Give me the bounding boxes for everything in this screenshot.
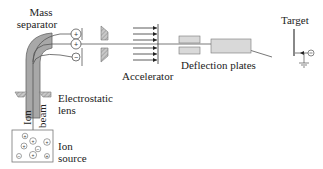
label-mass-separator-line2: separator (14, 18, 60, 30)
svg-text:+: + (32, 152, 35, 158)
label-ion-source-line1: Ion (58, 140, 87, 152)
label-mass-separator: Mass separator (22, 6, 60, 30)
target (293, 29, 314, 67)
svg-text:−: − (18, 153, 21, 159)
label-electrostatic-lens-line1: Electrostatic (58, 92, 113, 104)
label-ion-source: Ion source (58, 140, 87, 164)
label-mass-separator-line1: Mass (22, 6, 60, 18)
label-ion-beam-word1: Ion (21, 110, 33, 125)
deflection-plates (179, 36, 251, 54)
svg-text:+: + (46, 153, 49, 159)
svg-text:+: + (23, 143, 26, 149)
svg-text:−: − (74, 54, 78, 61)
svg-text:+: + (74, 31, 78, 38)
label-target: Target (281, 14, 309, 26)
label-electrostatic-lens-line2: lens (58, 104, 113, 116)
label-accelerator: Accelerator (122, 70, 173, 82)
svg-text:−: − (37, 146, 40, 152)
svg-text:+: + (24, 133, 27, 139)
svg-text:+: + (46, 139, 49, 145)
label-ion-source-line2: source (58, 152, 87, 164)
svg-text:+: + (74, 41, 78, 48)
label-ion-beam-word2: beam (36, 104, 48, 128)
label-deflection-plates: Deflection plates (181, 59, 256, 71)
label-electrostatic-lens: Electrostatic lens (58, 92, 113, 116)
svg-text:+: + (32, 138, 35, 144)
ion-source: + + + + − − + + (12, 130, 53, 162)
